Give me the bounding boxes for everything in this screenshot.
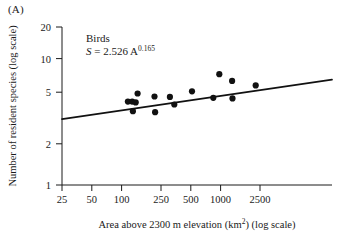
x-tick-label: 50 [87, 194, 98, 205]
y-tick-label: 20 [41, 22, 52, 33]
data-point [229, 95, 235, 101]
data-point [171, 101, 177, 107]
equation-body: = 2.526 A [92, 45, 139, 57]
y-tick-label: 1 [46, 180, 51, 191]
data-point [130, 108, 136, 114]
x-axis-title-part1: Area above 2300 m elevation (km [98, 219, 241, 231]
x-tick-label: 25 [57, 194, 68, 205]
y-axis-title: Number of resident species (log scale) [7, 25, 19, 187]
x-axis-title: Area above 2300 m elevation (km2) (log s… [98, 217, 296, 231]
y-tick-label: 5 [46, 87, 51, 98]
y-axis-ticks [56, 27, 62, 185]
x-tick-label: 2500 [250, 194, 271, 205]
data-point [135, 90, 141, 96]
data-point [151, 93, 157, 99]
data-point [152, 109, 158, 115]
data-point [253, 82, 259, 88]
data-point [229, 78, 235, 84]
data-point [210, 95, 216, 101]
y-tick-labels: 20 10 5 2 1 [41, 22, 52, 191]
x-tick-label: 1000 [210, 194, 231, 205]
regression-line [62, 80, 332, 120]
data-point [189, 88, 195, 94]
y-tick-label: 2 [46, 139, 51, 150]
equation-exponent: 0.165 [138, 44, 155, 53]
x-tick-label: 500 [183, 194, 199, 205]
x-axis-title-part2: ) (log scale) [245, 219, 296, 231]
group-label: Birds [86, 32, 110, 44]
figure-panel: (A) 20 10 5 2 1 [0, 0, 344, 244]
y-tick-label: 10 [41, 54, 52, 65]
fit-equation: S = 2.526 A0.165 [86, 44, 155, 57]
x-tick-label: 100 [114, 194, 130, 205]
x-axis-ticks [62, 185, 260, 191]
x-tick-label: 250 [153, 194, 169, 205]
data-point [167, 94, 173, 100]
x-tick-labels: 25 50 100 250 500 1000 2500 [57, 194, 271, 205]
data-point [216, 71, 222, 77]
scatter-plot: 20 10 5 2 1 25 50 100 250 500 1000 2500 … [0, 0, 344, 244]
data-point [133, 99, 139, 105]
